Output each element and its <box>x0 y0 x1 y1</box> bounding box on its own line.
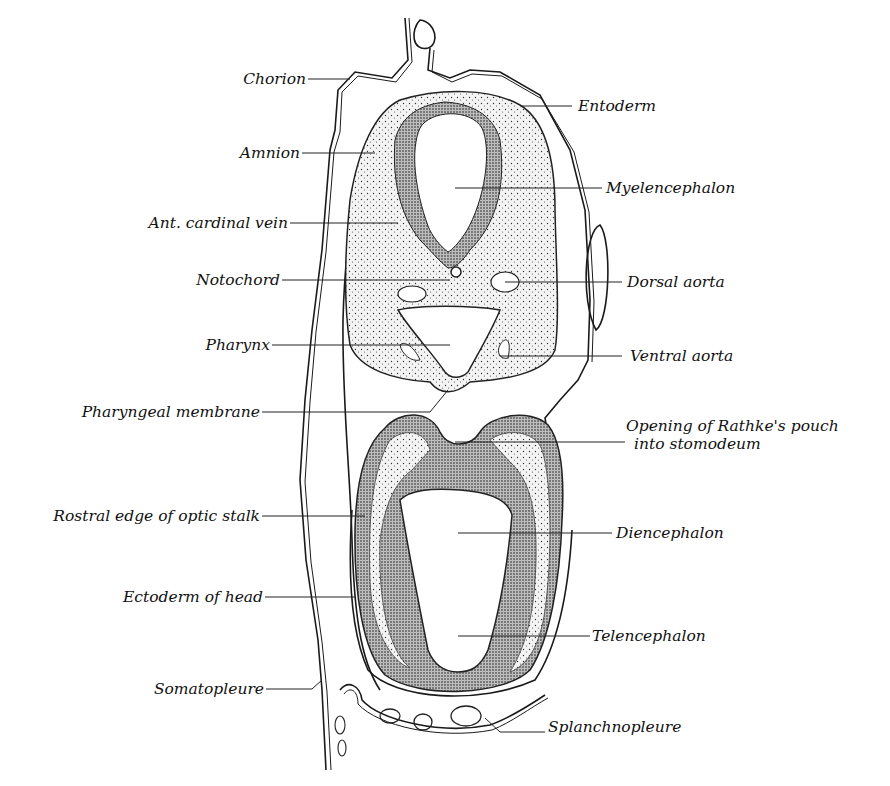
label-pharyngeal-membrane: Pharyngeal membrane <box>82 403 260 421</box>
lower-section <box>350 415 572 696</box>
label-rostral-edge-optic-stalk: Rostral edge of optic stalk <box>53 507 260 525</box>
label-myelencephalon: Myelencephalon <box>606 179 735 197</box>
embryo-section-figure: Chorion Amnion Ant. cardinal vein Notoch… <box>0 0 890 786</box>
label-notochord: Notochord <box>196 271 280 289</box>
upper-section <box>345 92 557 392</box>
label-telencephalon: Telencephalon <box>592 627 706 645</box>
label-pharynx: Pharynx <box>205 336 270 354</box>
label-chorion: Chorion <box>243 70 306 88</box>
label-ant-cardinal-vein: Ant. cardinal vein <box>149 214 288 232</box>
label-splanchnopleure: Splanchnopleure <box>548 718 681 736</box>
label-amnion: Amnion <box>240 144 300 162</box>
label-somatopleure: Somatopleure <box>154 680 264 698</box>
label-ectoderm-of-head: Ectoderm of head <box>123 588 263 606</box>
label-diencephalon: Diencephalon <box>616 524 724 542</box>
label-rathkes-pouch-line1: Opening of Rathke's pouch <box>626 417 839 435</box>
label-dorsal-aorta: Dorsal aorta <box>627 273 725 291</box>
section-drawing <box>0 0 890 786</box>
label-entoderm: Entoderm <box>578 97 656 115</box>
label-ventral-aorta: Ventral aorta <box>630 347 733 365</box>
label-rathkes-pouch-line2: into stomodeum <box>634 435 761 453</box>
